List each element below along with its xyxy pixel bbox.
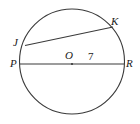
circle-geometry-figure: J K P R O 7 bbox=[0, 0, 140, 124]
geometry-canvas bbox=[0, 0, 140, 124]
point-label-P: P bbox=[10, 58, 17, 69]
center-point-marker bbox=[71, 63, 73, 65]
circle-shape bbox=[20, 9, 125, 114]
point-label-J: J bbox=[13, 37, 18, 48]
point-label-K: K bbox=[111, 16, 118, 27]
point-label-R: R bbox=[126, 58, 133, 69]
center-label-O: O bbox=[65, 50, 73, 61]
chord-segment-JK bbox=[25, 27, 113, 46]
radius-measure-label: 7 bbox=[88, 51, 94, 62]
